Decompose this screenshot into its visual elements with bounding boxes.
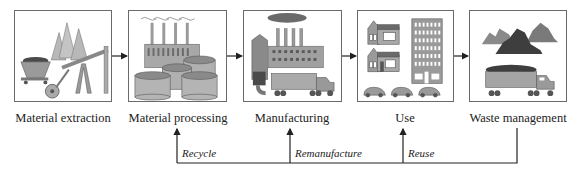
house-icon xyxy=(368,48,399,71)
stage-box-processing xyxy=(128,10,227,102)
stage-box-extraction xyxy=(14,10,112,102)
factory-icon xyxy=(269,29,324,68)
processing-illustration xyxy=(129,11,226,101)
label-remanufacture: Remanufacture xyxy=(295,147,362,159)
apartment-building-icon xyxy=(412,19,442,84)
smoke-icon xyxy=(141,17,195,20)
dump-truck-icon xyxy=(486,65,554,96)
house-icon xyxy=(368,21,399,44)
label-waste: Waste management xyxy=(460,111,576,126)
label-reuse: Reuse xyxy=(408,147,434,159)
extraction-illustration xyxy=(15,11,111,101)
use-illustration xyxy=(358,11,453,101)
truck-icon xyxy=(271,74,334,97)
stage-box-waste xyxy=(469,10,567,102)
lifecycle-diagram: Material extraction Material processing … xyxy=(0,0,579,173)
smoke-cloud-icon xyxy=(268,13,307,23)
stage-box-use xyxy=(357,10,454,102)
waste-illustration xyxy=(470,11,566,101)
label-extraction: Material extraction xyxy=(0,111,126,126)
trees-icon xyxy=(51,23,87,60)
label-processing: Material processing xyxy=(115,111,241,126)
stage-box-manufacturing xyxy=(243,10,342,102)
label-manufacturing: Manufacturing xyxy=(242,111,342,126)
cars-icon xyxy=(364,87,440,97)
landfill-piles-icon xyxy=(482,23,558,54)
silo-icon xyxy=(252,34,268,93)
manufacturing-illustration xyxy=(244,11,341,101)
label-recycle: Recycle xyxy=(182,147,216,159)
ore-cart-icon xyxy=(21,57,50,84)
label-use: Use xyxy=(356,111,454,126)
